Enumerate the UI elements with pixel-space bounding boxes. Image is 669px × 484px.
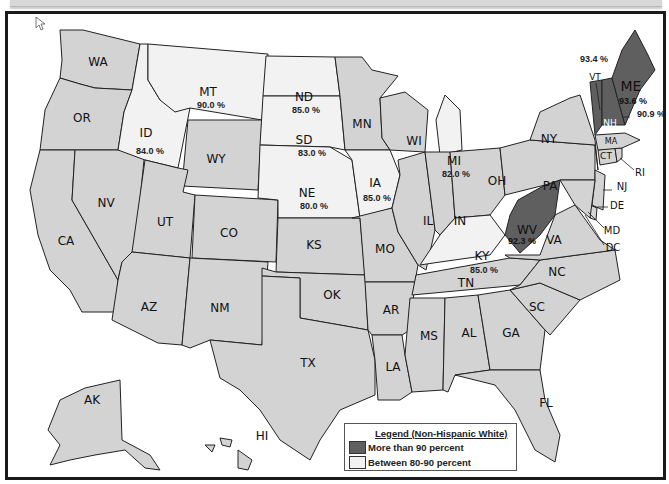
label-la: LA [385, 360, 401, 374]
mouse-cursor-icon [36, 17, 45, 30]
label-oh: OH [488, 174, 506, 188]
label-mt: MT [199, 85, 217, 99]
label-ne: NE [299, 186, 316, 200]
label-ri: RI [635, 167, 645, 178]
label-id: ID [140, 126, 153, 140]
label-ks: KS [306, 238, 322, 252]
label-al: AL [462, 326, 477, 340]
md-leader-line [588, 212, 604, 228]
label-ok: OK [323, 288, 341, 302]
label-co: CO [220, 226, 238, 240]
label-ny: NY [541, 132, 558, 146]
legend-item-80-90: Between 80-90 percent [349, 456, 471, 469]
value-nh: 90.9 % [637, 109, 665, 119]
value-ky: 85.0 % [470, 265, 498, 275]
label-vt: VT [589, 72, 601, 82]
value-id: 84.0 % [136, 146, 164, 156]
value-mi: 82.0 % [442, 169, 470, 179]
label-de: DE [610, 200, 624, 211]
value-sd: 83.0 % [298, 148, 326, 158]
label-ma: MA [605, 137, 618, 146]
state-labels: WA OR CA NV ID 84.0 % MT 90.0 % WY UT CO… [0, 0, 669, 484]
label-md: MD [604, 225, 621, 236]
label-mo: MO [375, 242, 395, 256]
value-me: 93.6 % [619, 96, 647, 106]
label-me: ME [621, 78, 642, 94]
dc-leader-line [585, 215, 604, 245]
label-nm: NM [210, 301, 229, 315]
value-vt: 93.4 % [580, 54, 608, 64]
label-ut: UT [157, 215, 174, 229]
label-fl: FL [539, 396, 553, 410]
label-tn: TN [457, 276, 474, 290]
label-ms: MS [420, 329, 438, 343]
label-sc: SC [529, 300, 545, 314]
label-mi: MI [447, 154, 461, 168]
vt-leader-line [596, 83, 600, 110]
label-ia: IA [369, 176, 382, 190]
legend-item-over-90: More than 90 percent [349, 441, 464, 454]
label-sd: SD [296, 133, 313, 147]
label-ak: AK [84, 393, 101, 407]
label-wy: WY [206, 152, 226, 166]
legend-label-over-90: More than 90 percent [368, 442, 464, 453]
value-ia: 85.0 % [363, 193, 391, 203]
label-hi: HI [256, 429, 269, 443]
value-nd: 85.0 % [292, 105, 320, 115]
label-wv: WV [517, 223, 538, 237]
value-mt: 90.0 % [197, 100, 225, 110]
label-ar: AR [383, 303, 400, 317]
legend-label-80-90: Between 80-90 percent [368, 457, 471, 468]
label-wa: WA [88, 55, 108, 69]
label-nv: NV [97, 196, 115, 210]
label-dc: DC [606, 242, 621, 253]
value-wv: 92.3 % [508, 236, 536, 246]
ri-leader-line [620, 158, 634, 170]
legend-title: Legend (Non-Hispanic White) [375, 428, 507, 439]
label-in: IN [454, 214, 467, 228]
label-nd: ND [295, 90, 313, 104]
legend-swatch-dark [349, 441, 366, 454]
label-nh: NH [603, 118, 617, 128]
label-az: AZ [141, 300, 157, 314]
label-or: OR [73, 111, 91, 125]
label-il: IL [423, 214, 434, 228]
label-wi: WI [406, 134, 421, 148]
label-ca: CA [58, 234, 75, 248]
legend-swatch-light [349, 456, 366, 469]
label-ct: CT [600, 151, 612, 161]
value-ne: 80.0 % [300, 201, 328, 211]
label-va: VA [546, 233, 562, 247]
label-tx: TX [299, 356, 316, 370]
label-pa: PA [543, 179, 558, 193]
label-nj: NJ [617, 181, 627, 192]
legend: Legend (Non-Hispanic White) More than 90… [344, 423, 517, 471]
label-ky: KY [475, 249, 490, 263]
label-nc: NC [548, 265, 565, 279]
label-ga: GA [502, 326, 520, 340]
label-mn: MN [352, 117, 371, 131]
